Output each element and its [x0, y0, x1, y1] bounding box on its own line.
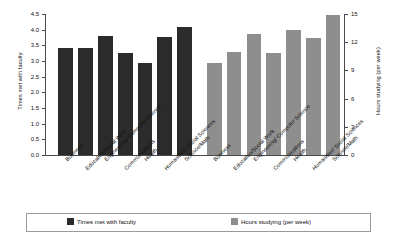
x-axis-tick-label: Health: [143, 158, 148, 163]
left-axis-tick-label: 2.5: [31, 74, 45, 80]
x-axis-tick-label: Education/Social Work: [84, 167, 89, 172]
legend-label: Hours studying (per week): [241, 219, 311, 225]
right-axis-tick-label: 15: [345, 11, 358, 17]
x-axis-tick-label: Engineering/ Computer Science: [252, 158, 257, 163]
right-axis-tick-label: 0: [345, 152, 354, 158]
legend-item-hours-studying: Hours studying (per week): [231, 218, 311, 225]
bar: [227, 52, 242, 155]
right-axis-tick-label: 9: [345, 67, 354, 73]
x-axis-tick-label: Science/Math: [183, 158, 188, 163]
left-axis-tick-label: 4.5: [31, 11, 45, 17]
bar: [157, 37, 172, 155]
bar: [286, 30, 301, 155]
x-axis-tick-label: Engineering/ Computer Science: [103, 158, 108, 163]
bar: [207, 63, 222, 155]
x-axis-tick-label: Education/Social Work: [232, 167, 237, 172]
bar: [78, 48, 93, 155]
x-axis-tick-label: Health: [292, 158, 297, 163]
x-axis-tick-label: Business: [64, 158, 69, 163]
bar: [177, 27, 192, 155]
legend-item-times-met: Times met with faculty: [67, 218, 136, 225]
chart-figure: Times met with faculty Hours studying (p…: [0, 0, 395, 240]
bar: [326, 15, 341, 155]
legend-swatch-icon: [231, 218, 238, 225]
x-axis-tick-label: Communications: [123, 167, 128, 172]
right-axis-title: Hours studying (per week): [375, 31, 381, 131]
bar: [247, 34, 262, 155]
x-axis-tick-label: Business: [212, 158, 217, 163]
left-axis-tick-label: 0.5: [31, 136, 45, 142]
left-axis-title: Times met with faculty: [17, 31, 23, 131]
chart-legend: Times met with faculty Hours studying (p…: [26, 213, 371, 232]
x-axis-tick-label: Communications: [272, 167, 277, 172]
left-axis-tick-label: 4.0: [31, 27, 45, 33]
left-axis-tick-label: 0.0: [31, 152, 45, 158]
bar: [58, 48, 73, 155]
left-axis-tick-label: 1.0: [31, 121, 45, 127]
x-axis-tick-label: Humanities/ Social Sciences: [311, 167, 316, 172]
right-axis-tick-label: 12: [345, 39, 358, 45]
legend-swatch-icon: [67, 218, 74, 225]
left-axis-tick-label: 3.0: [31, 58, 45, 64]
x-axis-tick-label: Science/Math: [331, 158, 336, 163]
left-axis-tick-label: 3.5: [31, 42, 45, 48]
legend-label: Times met with faculty: [77, 219, 136, 225]
bar: [306, 38, 321, 156]
right-axis-tick-label: 6: [345, 96, 354, 102]
left-axis-tick-label: 2.0: [31, 89, 45, 95]
left-axis-tick-label: 1.5: [31, 105, 45, 111]
bar: [98, 36, 113, 155]
x-axis-tick-label: Humanities/ Social Sciences: [163, 167, 168, 172]
